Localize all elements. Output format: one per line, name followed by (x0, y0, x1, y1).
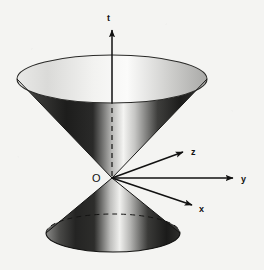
past-light-cone (46, 178, 180, 252)
past-cone-outer-surface (46, 178, 180, 252)
z-axis-label: z (191, 147, 196, 157)
light-cone-figure: t z y x O (0, 0, 264, 270)
origin-label: O (92, 172, 101, 184)
light-cone-diagram: t z y x O (0, 0, 264, 270)
t-axis-label: t (107, 13, 110, 23)
x-axis-label: x (199, 204, 204, 214)
y-axis-label: y (241, 174, 246, 184)
